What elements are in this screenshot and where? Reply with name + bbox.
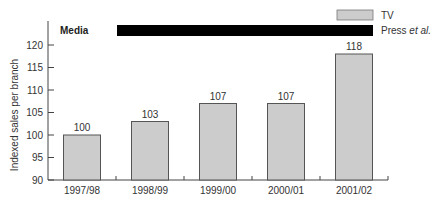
bar	[64, 135, 101, 180]
y-tick-label: 100	[26, 130, 43, 141]
x-tick-label: 1997/98	[64, 185, 101, 196]
bar-value-label: 107	[210, 91, 227, 102]
bar-value-label: 118	[346, 41, 362, 52]
y-tick-label: 105	[26, 107, 43, 118]
media-row: Media	[60, 25, 373, 36]
bar-group: 1001997/98	[64, 122, 101, 196]
legend-label-tv: TV	[381, 10, 394, 21]
media-row-label: Media	[60, 25, 89, 36]
y-tick-label: 90	[32, 175, 44, 186]
bar-group: 1071999/00	[200, 91, 237, 197]
bar-group: 1031998/99	[132, 109, 169, 197]
bar	[200, 104, 237, 181]
legend-label-press: Press et al.	[381, 25, 431, 36]
bar-chart: 9095100105110115120 1001997/981031998/99…	[0, 0, 435, 201]
legend-swatch-tv	[337, 10, 373, 20]
x-tick-label: 2001/02	[336, 185, 373, 196]
bar-group: 1182001/02	[336, 41, 373, 196]
y-tick-label: 110	[27, 85, 43, 96]
bar-group: 1072000/01	[268, 91, 305, 197]
x-tick-label: 1999/00	[200, 185, 237, 196]
x-tick-label: 1998/99	[132, 185, 169, 196]
bar	[268, 104, 305, 181]
y-tick-label: 95	[32, 152, 44, 163]
y-tick-label: 120	[26, 40, 43, 51]
y-axis-label: Indexed sales per branch	[9, 59, 20, 171]
bar	[336, 54, 373, 180]
bar	[132, 122, 169, 181]
x-tick-label: 2000/01	[268, 185, 305, 196]
y-tick-label: 115	[27, 62, 43, 73]
bars: 1001997/981031998/991071999/001072000/01…	[64, 41, 373, 196]
bar-value-label: 103	[142, 109, 159, 120]
press-period-bar	[117, 25, 373, 36]
bar-value-label: 107	[278, 91, 295, 102]
bar-value-label: 100	[74, 122, 91, 133]
y-axis: 9095100105110115120	[26, 21, 54, 186]
